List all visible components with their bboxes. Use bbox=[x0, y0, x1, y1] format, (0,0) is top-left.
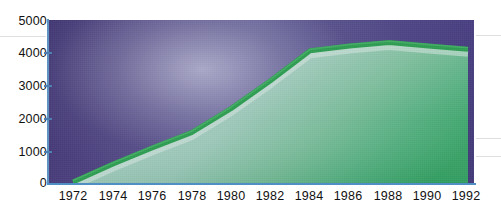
y-tick-label: 0 bbox=[3, 176, 47, 190]
x-tick-label-1992: 1992 bbox=[440, 189, 492, 203]
area-series-svg bbox=[49, 20, 474, 184]
y-tick-label: 1000 bbox=[3, 145, 47, 159]
y-tick-mark-3000 bbox=[44, 85, 52, 87]
scan-artifact-right-upper bbox=[476, 35, 501, 36]
scan-artifact-right-mid bbox=[476, 138, 501, 139]
y-tick-3000: 3000 bbox=[0, 79, 47, 93]
chart-page: 5000 4000 3000 2000 1000 0 1972 1974 197… bbox=[0, 0, 501, 210]
y-tick-4000: 4000 bbox=[0, 46, 47, 60]
plot-area bbox=[49, 20, 474, 184]
y-tick-label: 2000 bbox=[3, 112, 47, 126]
y-tick-2000: 2000 bbox=[0, 112, 47, 126]
x-axis-line bbox=[47, 183, 476, 185]
scan-artifact-top bbox=[0, 36, 46, 37]
y-tick-mark-2000 bbox=[44, 118, 52, 120]
y-tick-mark-1000 bbox=[44, 151, 52, 153]
y-tick-label: 4000 bbox=[3, 46, 47, 60]
y-tick-label: 5000 bbox=[3, 14, 47, 28]
scan-artifact-right-lower bbox=[476, 156, 501, 157]
y-tick-label: 3000 bbox=[3, 79, 47, 93]
y-tick-5000: 5000 bbox=[0, 14, 47, 28]
y-axis-line bbox=[47, 19, 49, 185]
y-tick-1000: 1000 bbox=[0, 145, 47, 159]
y-tick-mark-4000 bbox=[44, 52, 52, 54]
y-tick-0: 0 bbox=[0, 176, 47, 190]
